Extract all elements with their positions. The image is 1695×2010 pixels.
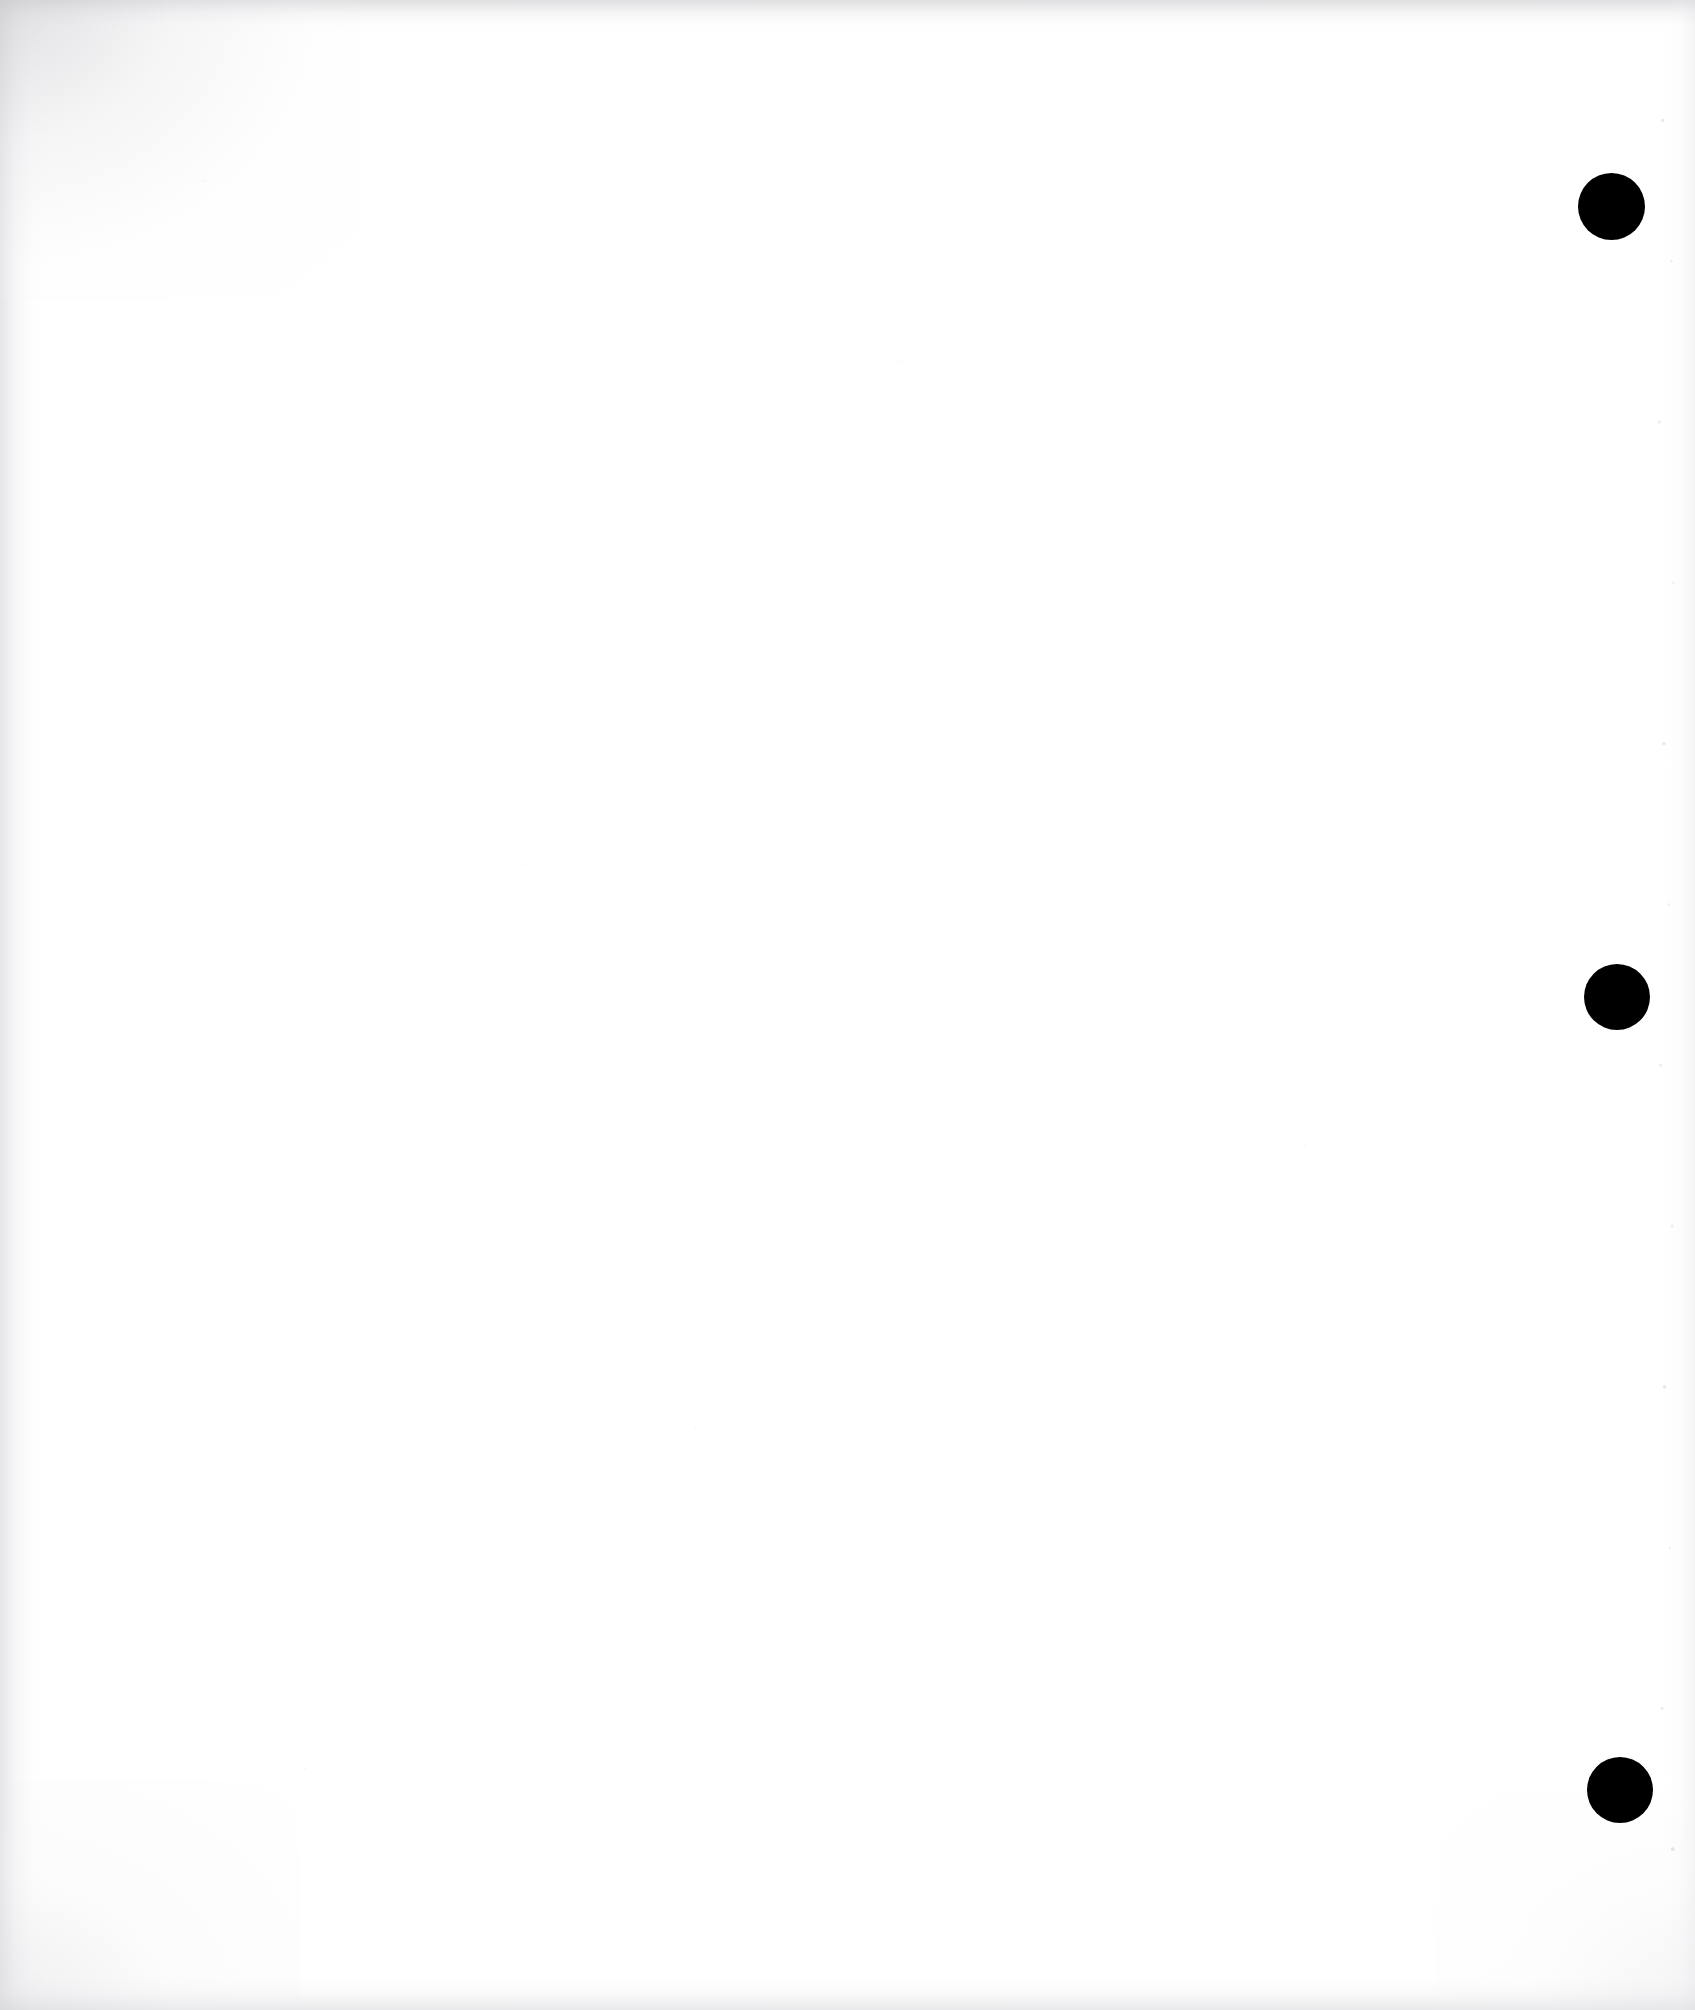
page-surface xyxy=(0,0,1695,2010)
punch-hole-top xyxy=(1578,173,1645,240)
punch-hole-bottom xyxy=(1587,1757,1653,1823)
scanned-page xyxy=(0,0,1695,2010)
punch-hole-middle xyxy=(1584,964,1650,1030)
